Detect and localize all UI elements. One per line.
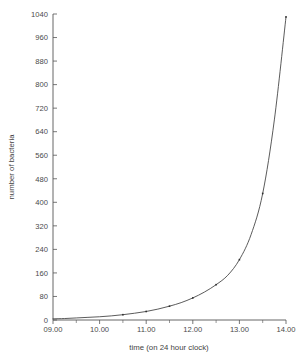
y-tick-label: 400 <box>35 198 48 207</box>
y-tick-label: 640 <box>35 127 48 136</box>
x-tick-label: 11.00 <box>137 325 155 334</box>
data-point <box>239 259 241 261</box>
data-point <box>215 284 217 286</box>
data-point <box>169 305 171 307</box>
y-tick-label: 160 <box>35 269 48 278</box>
y-tick-label: 320 <box>35 222 48 231</box>
y-tick-label: 880 <box>35 57 48 66</box>
x-tick-label: 09.00 <box>43 325 62 334</box>
data-point <box>192 297 194 299</box>
y-tick-label: 240 <box>35 245 48 254</box>
y-tick-label: 1040 <box>31 10 48 19</box>
y-axis-title: number of bacteria <box>7 134 16 200</box>
x-tick-label: 10.00 <box>90 325 109 334</box>
x-axis-title: time (on 24 hour clock) <box>129 343 209 352</box>
bacteria-growth-chart: 0801602403204004805606407208008809601040… <box>0 0 305 363</box>
x-tick-label: 14.00 <box>276 325 295 334</box>
data-point <box>145 311 147 313</box>
data-point <box>262 193 264 195</box>
y-tick-label: 480 <box>35 175 48 184</box>
y-tick-label: 560 <box>35 151 48 160</box>
data-point <box>122 314 124 316</box>
data-point <box>285 16 287 18</box>
x-tick-label: 12.00 <box>183 325 202 334</box>
y-tick-label: 720 <box>35 104 48 113</box>
chart-canvas: 0801602403204004805606407208008809601040… <box>0 0 305 363</box>
y-tick-label: 80 <box>40 292 48 301</box>
y-tick-label: 0 <box>44 316 48 325</box>
y-tick-label: 800 <box>35 80 48 89</box>
y-tick-label: 960 <box>35 33 48 42</box>
x-tick-label: 13.00 <box>230 325 249 334</box>
